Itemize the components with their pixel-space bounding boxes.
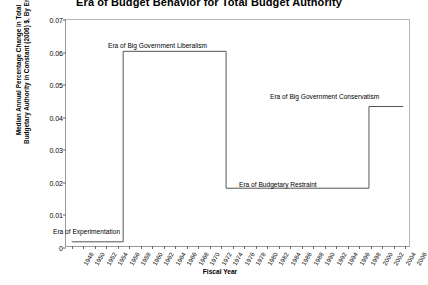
- x-axis-tick-mark: [302, 246, 303, 249]
- y-axis-label: Median Annual Percentage Change in Total…: [15, 0, 31, 145]
- x-axis-tick-mark: [394, 246, 395, 249]
- x-axis-tick-label: 1966: [185, 251, 198, 266]
- y-axis-tick-mark: [63, 85, 66, 86]
- era-annotation: Era of Budgetary Restraint: [239, 181, 317, 188]
- x-axis-tick-label: 1958: [139, 251, 152, 266]
- x-axis-tick-mark: [371, 246, 372, 249]
- x-axis-tick-mark: [325, 246, 326, 249]
- series-line: [66, 20, 409, 246]
- x-axis-tick-mark: [279, 246, 280, 249]
- y-axis-tick-mark: [63, 117, 66, 118]
- y-axis-tick-mark: [63, 182, 66, 183]
- x-axis-tick-mark: [336, 246, 337, 249]
- x-axis-tick-label: 1976: [243, 251, 256, 266]
- x-axis-tick-mark: [382, 246, 383, 249]
- x-axis-label: Fiscal Year: [150, 268, 290, 275]
- x-axis-tick-label: 1986: [300, 251, 313, 266]
- y-axis-tick-mark: [63, 248, 66, 249]
- y-axis-tick-label: 0.07: [49, 17, 63, 24]
- x-axis-tick-label: 1980: [266, 251, 279, 266]
- x-axis-tick-label: 1998: [369, 251, 382, 266]
- y-axis-tick-mark: [63, 52, 66, 53]
- x-axis-tick-mark: [118, 246, 119, 249]
- y-axis-tick-label: 0.05: [49, 82, 63, 89]
- x-axis-tick-mark: [129, 246, 130, 249]
- x-axis-tick-label: 1990: [323, 251, 336, 266]
- x-axis-tick-label: 1984: [289, 251, 302, 266]
- x-axis-tick-mark: [72, 246, 73, 249]
- x-axis-tick-label: 1950: [93, 251, 106, 266]
- x-axis-tick-mark: [233, 246, 234, 249]
- x-axis-tick-mark: [175, 246, 176, 249]
- x-axis-tick-label: 1994: [346, 251, 359, 266]
- era-annotation: Era of Big Government Liberalism: [108, 42, 207, 49]
- x-axis-tick-label: 1982: [277, 251, 290, 266]
- x-axis-tick-mark: [141, 246, 142, 249]
- x-axis-tick-label: 1992: [335, 251, 348, 266]
- x-axis-tick-mark: [187, 246, 188, 249]
- x-axis-tick-mark: [152, 246, 153, 249]
- x-axis-tick-mark: [95, 246, 96, 249]
- x-axis-tick-mark: [164, 246, 165, 249]
- x-axis-tick-label: 2000: [381, 251, 394, 266]
- x-axis-tick-label: 2004: [404, 251, 417, 266]
- x-axis-tick-label: 1996: [358, 251, 371, 266]
- y-axis-tick-label: 0.03: [49, 147, 63, 154]
- x-axis-tick-mark: [256, 246, 257, 249]
- x-axis-tick-mark: [198, 246, 199, 249]
- x-axis-tick-mark: [290, 246, 291, 249]
- x-axis-tick-label: 1970: [208, 251, 221, 266]
- x-axis-tick-mark: [210, 246, 211, 249]
- x-axis-tick-label: 1978: [254, 251, 267, 266]
- era-annotation: Era of Experimentation: [53, 228, 120, 235]
- x-axis-tick-label: 2006: [415, 251, 428, 266]
- plot-area: 00.010.020.030.040.050.060.07: [65, 19, 410, 247]
- y-axis-tick-label: 0.04: [49, 114, 63, 121]
- x-axis-tick-label: 1964: [174, 251, 187, 266]
- chart-title: Era of Budget Behavior for Total Budget …: [0, 0, 418, 8]
- x-axis-tick-mark: [221, 246, 222, 249]
- x-axis-tick-mark: [359, 246, 360, 249]
- y-axis-tick-mark: [63, 150, 66, 151]
- x-axis-tick-mark: [405, 246, 406, 249]
- x-axis-tick-mark: [83, 246, 84, 249]
- x-axis-tick-label: 1974: [231, 251, 244, 266]
- x-axis-tick-mark: [106, 246, 107, 249]
- x-axis-tick-label: 1952: [105, 251, 118, 266]
- x-axis-tick-label: 1968: [197, 251, 210, 266]
- x-axis-tick-mark: [244, 246, 245, 249]
- y-axis-tick-label: 0.01: [49, 212, 63, 219]
- x-axis-tick-mark: [267, 246, 268, 249]
- x-axis-tick-label: 1988: [312, 251, 325, 266]
- y-axis-tick-mark: [63, 20, 66, 21]
- x-axis-tick-label: 1948: [82, 251, 95, 266]
- x-axis-tick-mark: [313, 246, 314, 249]
- x-axis-tick-label: 1962: [162, 251, 175, 266]
- x-axis-tick-label: 1972: [220, 251, 233, 266]
- y-axis-tick-label: 0.06: [49, 49, 63, 56]
- y-axis-tick-label: 0.02: [49, 179, 63, 186]
- x-axis-tick-mark: [348, 246, 349, 249]
- x-axis-tick-label: 2002: [392, 251, 405, 266]
- y-axis-tick-mark: [63, 215, 66, 216]
- era-annotation: Era of Big Government Conservatism: [270, 93, 379, 100]
- x-axis-tick-label: 1960: [151, 251, 164, 266]
- x-axis-tick-label: 1956: [128, 251, 141, 266]
- x-axis-tick-label: 1954: [116, 251, 129, 266]
